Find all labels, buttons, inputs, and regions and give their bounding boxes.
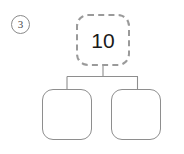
number-bond-part-box-right[interactable]	[111, 89, 161, 140]
number-bond-whole-value: 10	[91, 30, 114, 51]
number-bond-worksheet-item: 3 10	[0, 0, 184, 154]
number-bond-part-box-left[interactable]	[42, 89, 92, 140]
problem-number-badge: 3	[11, 15, 30, 34]
problem-number-label: 3	[18, 19, 24, 30]
number-bond-whole-box: 10	[76, 14, 130, 66]
